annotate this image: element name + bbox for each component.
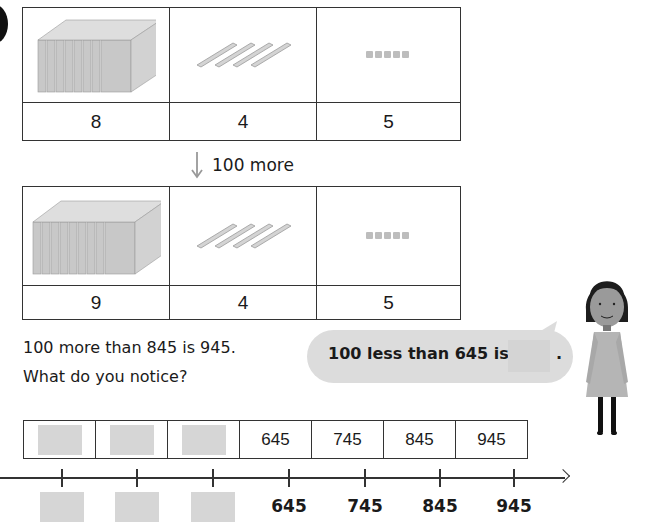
transition-label: 100 more <box>212 155 294 175</box>
ones-count: 5 <box>383 111 394 133</box>
number-line-tick <box>212 469 214 487</box>
number-line-label: 845 <box>410 496 470 516</box>
number-line-arrow-icon <box>556 469 570 483</box>
hundreds-count: 8 <box>91 111 102 133</box>
hundreds-cell <box>23 187 170 285</box>
strip-cell-3 <box>168 421 240 458</box>
speech-bubble-period: . <box>556 344 562 363</box>
tens-count: 4 <box>238 111 249 133</box>
question-number-badge <box>0 4 8 44</box>
hundreds-flats-icon <box>36 15 156 95</box>
number-line-label: 745 <box>335 496 395 516</box>
strip-cell-4: 645 <box>240 421 312 458</box>
ones-cubes-icon <box>364 230 414 242</box>
statement-line-2: What do you notice? <box>23 362 236 391</box>
number-line-answer-box[interactable] <box>191 492 235 522</box>
ones-cell <box>317 8 460 102</box>
number-line-tick <box>136 469 138 487</box>
strip-cell-2 <box>96 421 168 458</box>
tens-rods-icon <box>193 35 293 75</box>
tens-rods-icon <box>193 216 293 256</box>
strip-cell-6: 845 <box>384 421 456 458</box>
hundreds-flats-icon <box>31 195 161 277</box>
number-line-tick <box>61 469 63 487</box>
speech-answer-box[interactable] <box>508 340 550 372</box>
speech-bubble-text: 100 less than 645 is <box>328 344 509 363</box>
statement: 100 more than 845 is 945. What do you no… <box>23 333 236 391</box>
strip-answer-box[interactable] <box>110 425 154 455</box>
statement-line-1: 100 more than 845 is 945. <box>23 333 236 362</box>
number-line-tick <box>513 469 515 487</box>
down-arrow-icon <box>190 150 204 180</box>
number-line-tick <box>439 469 441 487</box>
girl-character <box>576 262 638 438</box>
strip-cell-7: 945 <box>456 421 527 458</box>
strip-cell-5: 745 <box>312 421 384 458</box>
strip-answer-box[interactable] <box>182 425 226 455</box>
number-line-label: 945 <box>484 496 544 516</box>
number-line-tick <box>288 469 290 487</box>
ones-cubes-icon <box>364 49 414 61</box>
number-line-axis <box>0 477 565 479</box>
number-line-tick <box>364 469 366 487</box>
strip-cell-1 <box>24 421 96 458</box>
strip-answer-box[interactable] <box>38 425 82 455</box>
ones-count: 5 <box>383 292 394 314</box>
place-value-table-after: 9 4 5 <box>22 186 461 320</box>
tens-cell <box>170 8 317 102</box>
number-line-label: 645 <box>259 496 319 516</box>
tens-cell <box>170 187 317 285</box>
number-line-answer-box[interactable] <box>40 492 84 522</box>
number-line-answer-box[interactable] <box>115 492 159 522</box>
ones-cell <box>317 187 460 285</box>
hundreds-count: 9 <box>91 292 102 314</box>
number-strip: 645 745 845 945 <box>23 420 528 459</box>
place-value-table-before: 8 4 5 <box>22 7 461 141</box>
tens-count: 4 <box>238 292 249 314</box>
hundreds-cell <box>23 8 170 102</box>
